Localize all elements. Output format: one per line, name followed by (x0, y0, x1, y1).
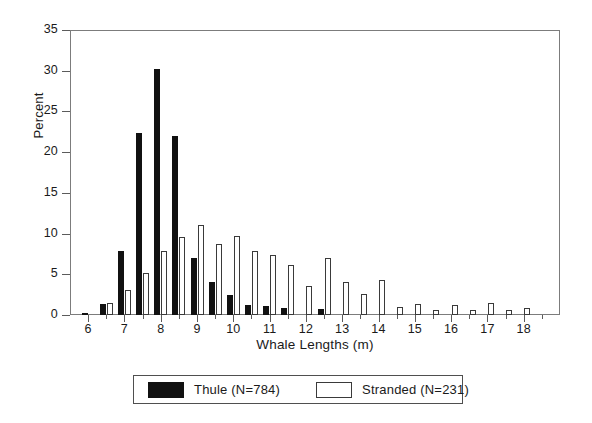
bar-thule (118, 251, 124, 315)
bar-stranded (452, 305, 458, 315)
bar-stranded (270, 255, 276, 315)
x-axis-minor-tick (215, 315, 216, 319)
x-axis-major-tick (306, 315, 307, 322)
x-axis-major-tick (415, 315, 416, 322)
y-axis-tick (62, 111, 70, 112)
bar-thule (318, 309, 324, 315)
y-axis-tick-label: 10 (18, 226, 58, 240)
bar-thule (136, 133, 142, 315)
x-axis-tick-label: 7 (109, 322, 139, 336)
bar-stranded (470, 310, 476, 315)
bar-thule (82, 313, 88, 315)
x-axis-minor-tick (433, 315, 434, 319)
y-axis-tick-label: 15 (18, 185, 58, 199)
y-axis-tick-label: 20 (18, 144, 58, 158)
x-axis-minor-tick (251, 315, 252, 319)
x-axis-minor-tick (106, 315, 107, 319)
bar-stranded (306, 286, 312, 315)
bar-stranded (488, 303, 494, 315)
y-axis-tick-label: 35 (18, 22, 58, 36)
x-axis-tick-label: 13 (327, 322, 357, 336)
x-axis-minor-tick (397, 315, 398, 319)
legend-entry-thule: Thule (N=784) (148, 376, 280, 403)
y-axis-tick (62, 315, 70, 316)
y-axis-tick (62, 30, 70, 31)
x-axis-tick-label: 8 (146, 322, 176, 336)
bar-stranded (415, 304, 421, 315)
x-axis-minor-tick (360, 315, 361, 319)
x-axis-tick-label: 16 (436, 322, 466, 336)
y-axis-tick-label: 0 (18, 307, 58, 321)
bar-stranded (506, 310, 512, 315)
x-axis-minor-tick (288, 315, 289, 319)
legend-swatch-thule-icon (148, 382, 184, 398)
bar-thule (245, 305, 251, 315)
x-axis-major-tick (379, 315, 380, 322)
legend-swatch-stranded-icon (316, 382, 352, 398)
y-axis-tick (62, 234, 70, 235)
bar-stranded (288, 265, 294, 315)
bar-stranded (161, 251, 167, 315)
x-axis-major-tick (524, 315, 525, 322)
bar-stranded (361, 294, 367, 315)
x-axis-minor-tick (469, 315, 470, 319)
bar-stranded (107, 303, 113, 315)
y-axis-tick-label: 5 (18, 266, 58, 280)
y-axis-tick (62, 71, 70, 72)
chart-legend: Thule (N=784) Stranded (N=231) (133, 375, 463, 404)
y-axis-tick (62, 193, 70, 194)
x-axis-tick-label: 11 (255, 322, 285, 336)
bar-stranded (343, 282, 349, 315)
x-axis-major-tick (233, 315, 234, 322)
legend-entry-stranded: Stranded (N=231) (316, 376, 469, 403)
x-axis-minor-tick (506, 315, 507, 319)
y-axis-tick (62, 274, 70, 275)
x-axis-minor-tick (542, 315, 543, 319)
x-axis-tick-label: 17 (472, 322, 502, 336)
x-axis-tick-label: 10 (218, 322, 248, 336)
x-axis-major-tick (197, 315, 198, 322)
legend-label-thule: Thule (N=784) (194, 382, 280, 397)
bar-stranded (198, 225, 204, 315)
y-axis-tick-label: 25 (18, 103, 58, 117)
bar-thule (209, 282, 215, 315)
bar-stranded (252, 251, 258, 315)
x-axis-tick-label: 15 (400, 322, 430, 336)
bar-stranded (216, 244, 222, 315)
bar-stranded (397, 307, 403, 315)
x-axis-minor-tick (143, 315, 144, 319)
bar-thule (263, 306, 269, 315)
x-axis-title: Whale Lengths (m) (70, 337, 560, 352)
x-axis-major-tick (487, 315, 488, 322)
whale-length-histogram-figure: Percent 05101520253035 67891011121314151… (0, 0, 592, 423)
y-axis-tick (62, 152, 70, 153)
bar-stranded (379, 280, 385, 315)
bar-stranded (125, 290, 131, 315)
legend-label-stranded: Stranded (N=231) (362, 382, 469, 397)
x-axis-major-tick (161, 315, 162, 322)
bar-thule (281, 308, 287, 315)
y-axis-tick-label: 30 (18, 63, 58, 77)
bar-thule (172, 136, 178, 315)
x-axis-major-tick (124, 315, 125, 322)
bar-stranded (524, 308, 530, 315)
x-axis-tick-label: 14 (364, 322, 394, 336)
bar-stranded (325, 258, 331, 315)
bar-thule (154, 69, 160, 315)
x-axis-tick-label: 18 (509, 322, 539, 336)
bar-thule (191, 258, 197, 315)
x-axis-minor-tick (324, 315, 325, 319)
x-axis-tick-label: 12 (291, 322, 321, 336)
bar-stranded (143, 273, 149, 315)
x-axis-major-tick (342, 315, 343, 322)
x-axis-major-tick (451, 315, 452, 322)
x-axis-major-tick (88, 315, 89, 322)
bar-thule (227, 295, 233, 315)
x-axis-tick-label: 6 (73, 322, 103, 336)
x-axis-major-tick (270, 315, 271, 322)
x-axis-minor-tick (179, 315, 180, 319)
bar-thule (100, 304, 106, 315)
bar-stranded (179, 237, 185, 315)
bar-stranded (433, 310, 439, 315)
x-axis-tick-label: 9 (182, 322, 212, 336)
